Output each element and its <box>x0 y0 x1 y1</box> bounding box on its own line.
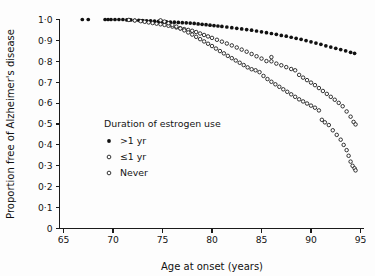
data-point <box>325 92 329 96</box>
legend-title: Duration of estrogen use <box>104 118 221 129</box>
data-point <box>159 19 163 23</box>
data-point <box>200 22 204 26</box>
data-point <box>270 80 274 84</box>
data-point <box>260 57 264 61</box>
data-point <box>190 29 194 33</box>
legend-marker-filled-circle <box>107 139 111 143</box>
data-series-group <box>80 18 357 173</box>
data-point <box>335 133 339 137</box>
data-point <box>270 60 274 64</box>
data-point <box>275 32 279 36</box>
data-point <box>235 46 239 50</box>
data-point <box>344 49 348 53</box>
data-point <box>167 22 171 26</box>
data-point <box>255 29 259 33</box>
data-point <box>321 89 325 93</box>
data-point <box>198 32 202 36</box>
data-point <box>294 36 298 40</box>
legend-marker-open-circle <box>107 155 111 159</box>
data-point <box>280 64 284 68</box>
data-point <box>245 28 249 32</box>
data-point <box>254 69 258 73</box>
data-point <box>284 34 288 38</box>
data-point <box>235 26 239 30</box>
y-axis-title: Proportion free of Alzheimer's disease <box>5 29 16 219</box>
data-point <box>342 143 346 147</box>
data-point <box>127 18 131 22</box>
data-point <box>176 21 180 25</box>
data-point <box>234 59 238 63</box>
data-point <box>210 44 214 48</box>
data-point <box>341 104 345 108</box>
data-point <box>151 21 155 25</box>
data-point <box>289 67 293 71</box>
legend-marker-open-circle <box>107 171 111 175</box>
data-point <box>309 40 313 44</box>
data-point <box>349 50 353 54</box>
data-point <box>204 23 208 27</box>
data-point <box>260 30 264 34</box>
data-point <box>245 50 249 54</box>
y-tick-label-10: 1·0 <box>38 14 53 25</box>
data-point <box>250 52 254 56</box>
data-point <box>206 42 210 46</box>
data-point <box>327 123 331 127</box>
survival-curve-chart: 65707580859095 00·10·20·30·40·50·60·70·8… <box>0 0 375 276</box>
x-tick-label-4: 85 <box>256 234 268 245</box>
data-point <box>317 86 321 90</box>
data-point <box>354 123 358 127</box>
data-point <box>208 23 212 27</box>
y-tick-label-1: 0·1 <box>38 202 53 213</box>
data-point <box>270 32 274 36</box>
legend-label-0: >1 yr <box>120 135 146 146</box>
data-point <box>270 55 274 59</box>
x-tick-label-6: 95 <box>355 234 367 245</box>
data-point <box>86 18 90 22</box>
data-point <box>250 67 254 71</box>
data-point <box>339 138 343 142</box>
y-tick-label-3: 0·3 <box>38 160 53 171</box>
data-point <box>202 40 206 44</box>
y-tick-label-0: 0 <box>47 223 53 234</box>
data-point <box>121 18 125 22</box>
y-tick-label-9: 0·9 <box>38 35 53 46</box>
data-point <box>317 109 321 113</box>
data-point <box>305 102 309 106</box>
data-point <box>220 40 224 44</box>
x-tick-label-5: 90 <box>305 234 317 245</box>
y-tick-labels: 00·10·20·30·40·50·60·70·80·91·0 <box>38 14 53 234</box>
data-point <box>353 52 357 56</box>
data-point <box>285 65 289 69</box>
x-tick-label-1: 70 <box>107 234 119 245</box>
data-point <box>225 42 229 46</box>
data-point <box>324 44 328 48</box>
data-point <box>159 23 163 27</box>
data-point <box>220 25 224 29</box>
data-point <box>180 21 184 25</box>
data-point <box>175 25 179 29</box>
data-point <box>230 44 234 48</box>
data-point <box>345 110 349 114</box>
data-point <box>215 38 219 42</box>
legend-label-1: ≤1 yr <box>120 151 146 162</box>
data-point <box>258 70 262 74</box>
data-point <box>279 34 283 38</box>
data-point <box>188 21 192 25</box>
data-point <box>329 95 333 99</box>
data-point <box>337 101 341 105</box>
data-point <box>230 26 234 30</box>
data-point <box>147 21 151 25</box>
data-point <box>183 29 187 33</box>
data-point <box>186 31 190 35</box>
data-point <box>349 160 353 164</box>
data-point <box>196 22 200 26</box>
data-point <box>299 38 303 42</box>
data-point <box>238 61 242 64</box>
data-point <box>240 27 244 31</box>
data-point <box>163 20 167 24</box>
data-point <box>285 90 289 94</box>
data-point <box>265 31 269 35</box>
legend: Duration of estrogen use>1 yr≤1 yrNever <box>104 118 221 178</box>
data-point <box>230 56 234 60</box>
data-point <box>293 95 297 99</box>
